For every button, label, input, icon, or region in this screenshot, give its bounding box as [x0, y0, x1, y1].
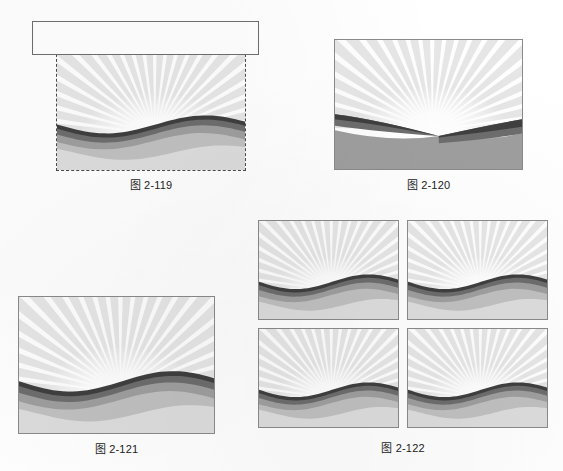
- landscape-bands: [259, 221, 398, 319]
- figure-2-121-image[interactable]: [18, 296, 215, 434]
- figure-2-119-image[interactable]: [57, 50, 245, 170]
- sunburst-landscape-scene: [408, 221, 547, 319]
- figure-2-120: 图 2-120: [334, 39, 523, 170]
- figure-2-119-caption: 图 2-119: [57, 176, 245, 192]
- tile[interactable]: [407, 328, 548, 428]
- tile[interactable]: [258, 220, 399, 320]
- tile[interactable]: [407, 220, 548, 320]
- sunburst-landscape-scene: [57, 50, 245, 170]
- sunburst-landscape-scene: [408, 329, 547, 427]
- sunburst-landscape-scene: [259, 221, 398, 319]
- landscape-bands-pinched: [335, 40, 522, 169]
- sunburst-landscape-scene: [19, 297, 214, 433]
- white-rectangle-overlay[interactable]: [32, 21, 259, 55]
- landscape-bands: [19, 297, 214, 433]
- sunburst-landscape-scene: [259, 329, 398, 427]
- figure-2-121: 图 2-121: [18, 296, 215, 434]
- figure-2-122: 图 2-122: [258, 220, 548, 434]
- figure-2-122-tile-grid: [258, 220, 548, 434]
- figure-2-120-image[interactable]: [334, 39, 523, 170]
- landscape-bands: [259, 329, 398, 427]
- landscape-bands: [57, 50, 245, 170]
- figure-2-121-caption: 图 2-121: [18, 440, 215, 456]
- figure-2-122-caption: 图 2-122: [258, 439, 548, 455]
- sunburst-landscape-scene-pinched: [335, 40, 522, 169]
- landscape-bands: [408, 329, 547, 427]
- figure-2-120-caption: 图 2-120: [334, 176, 523, 192]
- tile[interactable]: [258, 328, 399, 428]
- landscape-bands: [408, 221, 547, 319]
- figure-2-119: 图 2-119: [57, 50, 245, 170]
